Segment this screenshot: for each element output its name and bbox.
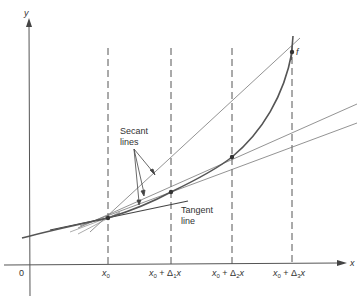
x-axis xyxy=(4,263,340,265)
point-x0 xyxy=(106,216,110,220)
svg-text:line: line xyxy=(181,216,195,226)
tick-x0-d3: x0 + Δ3x xyxy=(272,268,305,279)
x-axis-label: x xyxy=(349,258,355,268)
y-axis xyxy=(29,24,30,296)
curve-label: f xyxy=(296,47,300,57)
y-axis-arrow-icon xyxy=(26,18,32,27)
function-curve xyxy=(22,52,292,238)
secant-tangent-diagram: y x 0 f Secant lines Tangent line x0 x0 … xyxy=(0,0,357,301)
origin-label: 0 xyxy=(19,268,24,278)
tick-x0-d2: x0 + Δ2x xyxy=(211,268,244,279)
secant-label-arrows xyxy=(134,149,155,205)
point-x1 xyxy=(169,190,173,194)
x-axis-arrow-icon xyxy=(337,260,347,266)
svg-text:lines: lines xyxy=(120,137,139,147)
tick-x0-d1: x0 + Δ1x xyxy=(148,268,181,279)
tick-x0: x0 xyxy=(101,268,111,279)
tangent-label: Tangent xyxy=(181,205,214,215)
point-x3 xyxy=(290,50,294,54)
secant-label: Secant xyxy=(120,126,149,136)
y-axis-label: y xyxy=(23,8,29,18)
point-x2 xyxy=(230,155,234,159)
